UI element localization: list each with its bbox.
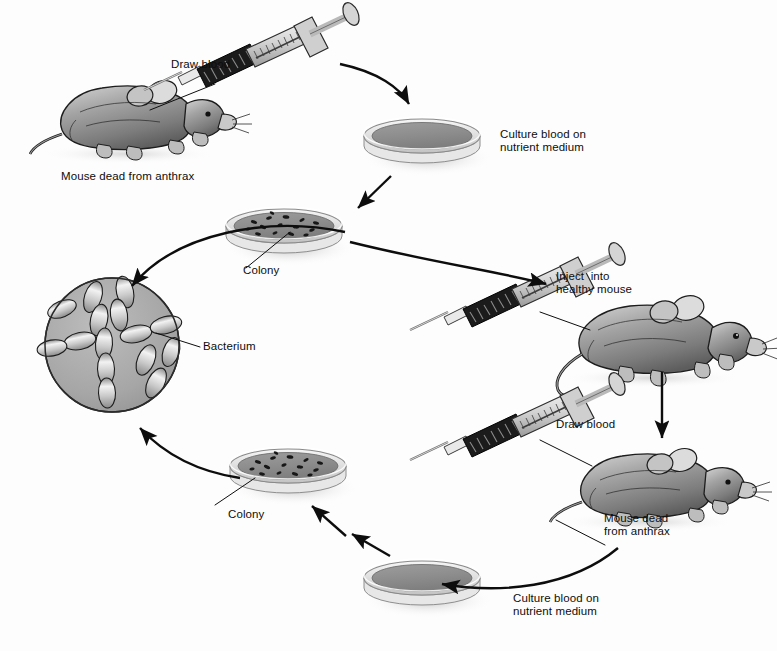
label-draw-blood-top: Draw blood — [171, 58, 230, 71]
leader-inject — [540, 312, 590, 330]
label-colony-bottom: Colony — [228, 508, 264, 521]
label-bacterium: Bacterium — [203, 340, 256, 353]
dead-mouse-top — [30, 77, 252, 164]
label-draw-blood-bottom: Draw blood — [556, 418, 615, 431]
label-inject-into-healthy-mouse: Inject into healthy mouse — [556, 270, 632, 296]
petri-dish-culture-top — [362, 117, 494, 176]
arrow-colony-to-inject — [350, 242, 546, 284]
label-colony-top: Colony — [243, 264, 279, 277]
label-culture-bottom: Culture blood on nutrient medium — [513, 592, 599, 618]
figure-canvas: Draw blood Mouse dead from anthrax Cultu… — [0, 0, 777, 651]
syringe-draw-blood-top — [144, 0, 362, 90]
arrow-to-culture-top — [340, 64, 409, 104]
leader-draw-blood-bottom — [540, 440, 592, 466]
label-mouse-dead-top: Mouse dead from anthrax — [61, 170, 194, 183]
petri-dish-colony-bottom — [228, 447, 360, 506]
label-mouse-dead-bottom: Mouse dead from anthrax — [604, 512, 670, 538]
arrow-colony-bottom — [312, 506, 346, 536]
microscope-field-with-bacteria — [36, 275, 184, 412]
petri-dish-colony-top — [224, 207, 356, 266]
arrow-culture-to-colony-top — [358, 176, 391, 208]
arrow-colony-to-microscope-bottom — [140, 428, 240, 478]
healthy-mouse — [557, 292, 777, 396]
label-culture-top: Culture blood on nutrient medium — [500, 128, 586, 154]
arrow-culture-bottom-to-colony — [352, 534, 390, 556]
diagram-artwork — [0, 0, 777, 651]
